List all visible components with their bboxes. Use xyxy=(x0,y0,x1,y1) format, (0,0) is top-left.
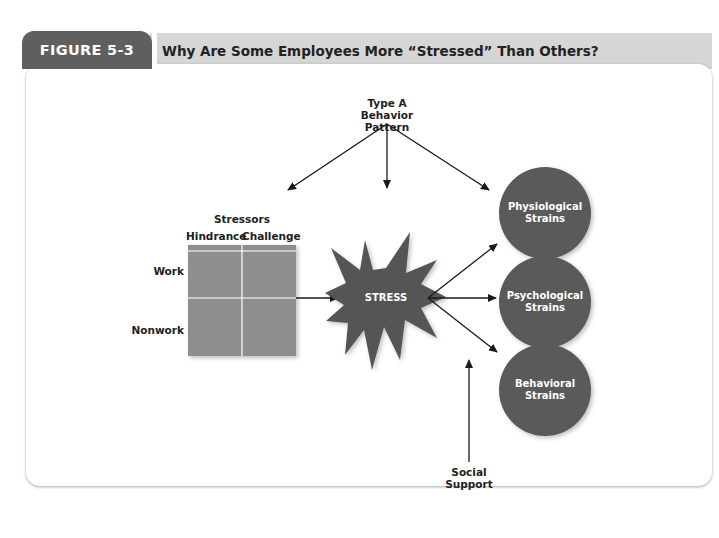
column-hindrance: Hindrance xyxy=(186,230,242,242)
stressors-title: Stressors xyxy=(200,213,284,225)
outcome-line2: Strains xyxy=(500,213,590,225)
stress-to-strains-arrows xyxy=(428,244,497,352)
social-support-line1: Social xyxy=(439,466,499,478)
outcome-line1: Psychological xyxy=(500,290,590,302)
physiological-strains-label: Physiological Strains xyxy=(500,201,590,225)
row-work: Work xyxy=(140,265,184,277)
type-a-line1: Type A xyxy=(337,97,437,109)
behavioral-strains-label: Behavioral Strains xyxy=(500,378,590,402)
outcome-line2: Strains xyxy=(500,302,590,314)
type-a-line2: Behavior Pattern xyxy=(337,109,437,133)
outcome-line2: Strains xyxy=(500,390,590,402)
type-a-label: Type A Behavior Pattern xyxy=(337,97,437,133)
outcome-line1: Physiological xyxy=(500,201,590,213)
stress-label: STRESS xyxy=(356,292,416,304)
outcome-line1: Behavioral xyxy=(500,378,590,390)
type-a-arrows xyxy=(288,124,489,190)
column-challenge: Challenge xyxy=(242,230,298,242)
row-nonwork: Nonwork xyxy=(120,324,184,336)
stress-model-diagram xyxy=(0,0,719,538)
social-support-line2: Support xyxy=(439,478,499,490)
psychological-strains-label: Psychological Strains xyxy=(500,290,590,314)
social-support-label: Social Support xyxy=(439,466,499,490)
